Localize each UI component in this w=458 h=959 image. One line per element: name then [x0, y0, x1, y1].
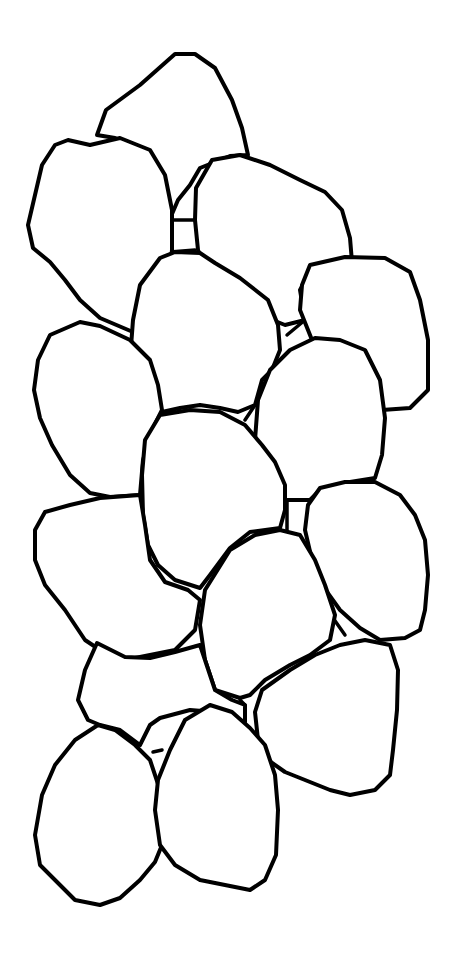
stone-bottom-left [35, 725, 162, 905]
stacked-stones-illustration [0, 0, 458, 959]
coloring-page-canvas [0, 0, 458, 959]
gap-7-line [153, 750, 162, 752]
